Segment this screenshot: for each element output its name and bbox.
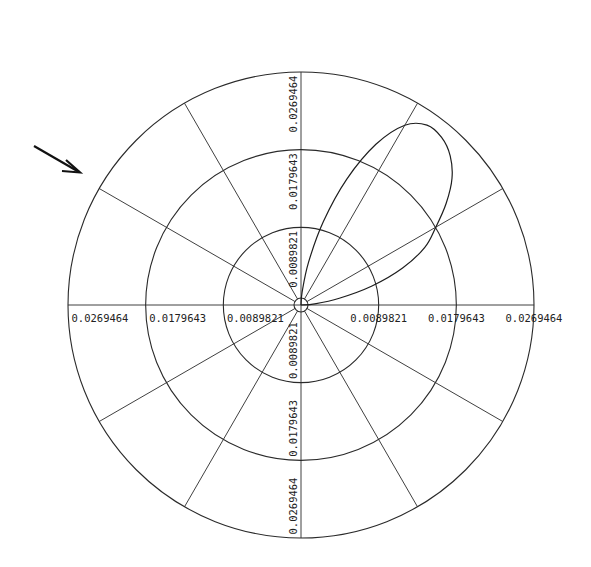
tick-label-right-2: 0.0179643 xyxy=(428,312,485,324)
tick-label-right-1: 0.0089821 xyxy=(350,312,407,324)
tick-label-top-3: 0.0269464 xyxy=(287,76,299,133)
tick-label-top-2: 0.0179643 xyxy=(287,153,299,210)
tick-label-bottom-1: 0.0089821 xyxy=(287,322,299,379)
spoke-240deg xyxy=(185,311,298,507)
tick-label-left-2: 0.0179643 xyxy=(149,312,206,324)
data-lobe-curve xyxy=(301,123,452,305)
tick-label-bottom-2: 0.0179643 xyxy=(287,400,299,457)
spoke-210deg xyxy=(99,309,295,422)
spoke-30deg xyxy=(307,189,503,302)
polar-plot: 0.00898210.00898210.00898210.00898210.01… xyxy=(0,0,591,567)
tick-label-top-1: 0.0089821 xyxy=(287,231,299,288)
spoke-150deg xyxy=(99,189,295,302)
tick-label-right-3: 0.0269464 xyxy=(506,312,563,324)
spoke-330deg xyxy=(307,309,503,422)
tick-label-left-1: 0.0089821 xyxy=(227,312,284,324)
tick-label-left-3: 0.0269464 xyxy=(72,312,129,324)
tick-label-bottom-3: 0.0269464 xyxy=(287,478,299,535)
spoke-120deg xyxy=(185,103,298,299)
spoke-300deg xyxy=(305,311,418,507)
annotation-arrow-icon xyxy=(34,146,80,173)
